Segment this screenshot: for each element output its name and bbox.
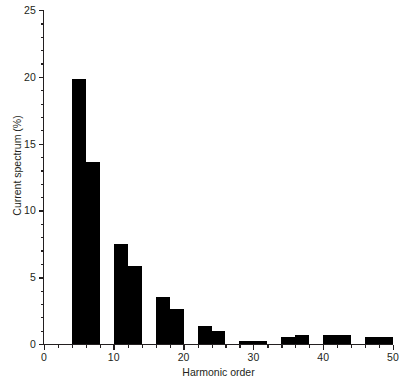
y-tick-label-5: 5 (6, 272, 36, 283)
x-minor-tick (337, 345, 338, 348)
x-minor-tick (142, 345, 143, 348)
x-tick-40 (323, 345, 324, 350)
bar-harmonic-25 (212, 331, 226, 344)
y-tick-label-20: 20 (6, 72, 36, 83)
x-minor-tick (379, 345, 380, 348)
y-tick-label-0: 0 (6, 339, 36, 350)
x-tick-10 (113, 345, 114, 350)
x-minor-tick (128, 345, 129, 348)
bar-harmonic-7 (86, 162, 100, 344)
x-tick-label-0: 0 (24, 352, 64, 363)
x-minor-tick (239, 345, 240, 348)
bar-harmonic-19 (170, 309, 184, 344)
bar-harmonic-13 (128, 266, 142, 344)
x-minor-tick (351, 345, 352, 348)
x-tick-label-50: 50 (373, 352, 405, 363)
y-tick-label-25: 25 (6, 5, 36, 16)
x-minor-tick (198, 345, 199, 348)
x-tick-20 (183, 345, 184, 350)
x-minor-tick (58, 345, 59, 348)
x-minor-tick (267, 345, 268, 348)
bar-harmonic-17 (156, 297, 170, 344)
x-tick-50 (393, 345, 394, 350)
x-minor-tick (86, 345, 87, 348)
bar-harmonic-5 (72, 79, 86, 344)
x-minor-tick (212, 345, 213, 348)
x-axis-title: Harmonic order (44, 367, 393, 378)
bar-harmonic-47 (365, 337, 379, 344)
bar-harmonic-37 (295, 335, 309, 344)
bar-harmonic-41 (323, 335, 337, 344)
x-tick-30 (253, 345, 254, 350)
x-tick-label-30: 30 (233, 352, 273, 363)
x-tick-label-20: 20 (164, 352, 204, 363)
x-minor-tick (225, 345, 226, 348)
x-tick-label-10: 10 (94, 352, 134, 363)
bar-harmonic-23 (198, 326, 212, 344)
x-minor-tick (365, 345, 366, 348)
x-minor-tick (72, 345, 73, 348)
bar-harmonic-31 (253, 341, 267, 344)
x-minor-tick (295, 345, 296, 348)
bar-harmonic-43 (337, 335, 351, 344)
x-tick-label-40: 40 (303, 352, 343, 363)
bar-harmonic-11 (114, 244, 128, 344)
x-minor-tick (309, 345, 310, 348)
bar-series (44, 10, 393, 344)
x-minor-tick (100, 345, 101, 348)
y-axis-title: Current spectrum (%) (12, 86, 23, 246)
bar-harmonic-35 (281, 337, 295, 344)
bar-harmonic-49 (379, 337, 393, 344)
x-minor-tick (281, 345, 282, 348)
x-tick-0 (44, 345, 45, 350)
x-minor-tick (170, 345, 171, 348)
chart-figure: 25 20 15 10 5 0 0 10 20 30 40 50 Harmoni… (0, 0, 405, 382)
bar-harmonic-29 (239, 341, 253, 344)
x-minor-tick (156, 345, 157, 348)
